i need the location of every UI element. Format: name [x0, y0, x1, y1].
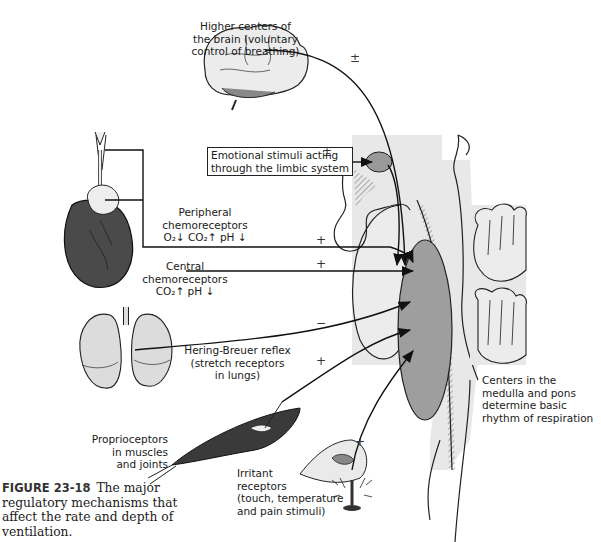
label-line: control of breathing)	[183, 45, 308, 58]
label-irritant-receptors: Irritant receptors (touch, temperature a…	[237, 467, 343, 517]
label-line: Higher centers of	[183, 20, 308, 33]
label-line: Irritant	[237, 467, 343, 480]
label-medulla-pons-centers: Centers in the medulla and pons determin…	[482, 374, 593, 424]
label-line: Peripheral	[150, 206, 260, 219]
sign-higher-centers: ±	[350, 52, 360, 64]
label-line: and pain stimuli)	[237, 505, 343, 518]
label-line: in lungs)	[175, 369, 300, 382]
label-line: Central	[130, 260, 240, 273]
label-line: chemoreceptors	[130, 273, 240, 286]
sign-emotional: ±	[322, 146, 332, 158]
diagram-stage: Higher centers of the brain (voluntary c…	[0, 0, 601, 542]
label-line: receptors	[237, 480, 343, 493]
label-line: Hering-Breuer reflex	[175, 344, 300, 357]
label-line: O₂↓ CO₂↑ pH ↓	[150, 231, 260, 244]
label-line: chemoreceptors	[150, 219, 260, 232]
label-line: Centers in the	[482, 374, 593, 387]
sign-hering-breuer: −	[316, 317, 326, 329]
label-line: determine basic	[482, 399, 593, 412]
sign-peripheral: +	[316, 234, 326, 246]
label-line: rhythm of respiration	[482, 412, 593, 425]
heart-illustration	[64, 132, 132, 287]
sign-irritant: +	[355, 436, 365, 448]
brainstem-section	[334, 135, 478, 542]
label-proprioceptors: Proprioceptors in muscles and joints	[80, 433, 168, 471]
label-line: through the limbic system	[211, 162, 349, 175]
cerebellum	[470, 204, 526, 365]
sign-central: +	[316, 258, 326, 270]
sign-proprioceptors: +	[316, 355, 326, 367]
label-line: CO₂↑ pH ↓	[130, 285, 240, 298]
label-higher-centers: Higher centers of the brain (voluntary c…	[183, 20, 308, 58]
label-hering-breuer: Hering-Breuer reflex (stretch receptors …	[175, 344, 300, 382]
label-line: in muscles	[80, 446, 168, 459]
label-line: Proprioceptors	[80, 433, 168, 446]
label-peripheral-chemoreceptors: Peripheral chemoreceptors O₂↓ CO₂↑ pH ↓	[150, 206, 260, 244]
figure-number: FIGURE 23-18	[2, 481, 90, 495]
figure-caption: FIGURE 23-18The major regulatory mechani…	[2, 481, 202, 539]
label-central-chemoreceptors: Central chemoreceptors CO₂↑ pH ↓	[130, 260, 240, 298]
label-line: (touch, temperature	[237, 492, 343, 505]
label-line: medulla and pons	[482, 387, 593, 400]
label-line: the brain (voluntary	[183, 33, 308, 46]
label-line: and joints	[80, 458, 168, 471]
label-line: (stretch receptors	[175, 357, 300, 370]
